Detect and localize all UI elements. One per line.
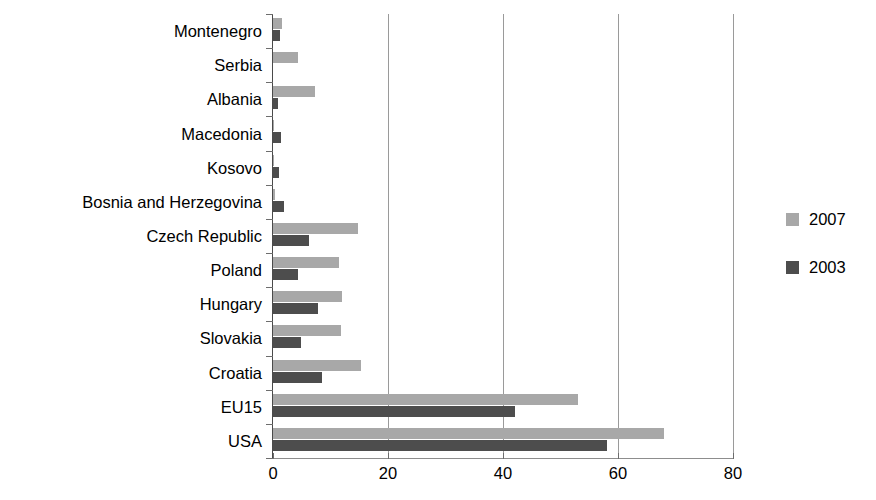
bar-2003 bbox=[273, 440, 607, 451]
plot-area bbox=[273, 14, 733, 458]
x-axis-tick-label: 80 bbox=[703, 464, 763, 482]
y-tick-mark bbox=[266, 219, 273, 220]
bar-2003 bbox=[273, 372, 322, 383]
bar-2007 bbox=[273, 325, 341, 336]
y-axis-category-label: USA bbox=[0, 433, 262, 450]
x-tick-mark bbox=[733, 453, 734, 459]
bar-2007 bbox=[273, 291, 342, 302]
bar-2007 bbox=[273, 360, 361, 371]
legend-item: 2007 bbox=[786, 210, 876, 258]
x-tick-mark bbox=[273, 453, 274, 459]
bar-group bbox=[273, 219, 733, 253]
bar-2007 bbox=[273, 155, 274, 166]
y-tick-mark bbox=[266, 48, 273, 49]
y-tick-mark bbox=[266, 321, 273, 322]
bar-2007 bbox=[273, 394, 578, 405]
bar-group bbox=[273, 48, 733, 82]
bar-2003 bbox=[273, 269, 298, 280]
bar-group bbox=[273, 14, 733, 48]
bar-2007 bbox=[273, 223, 358, 234]
y-axis-labels: MontenegroSerbiaAlbaniaMacedoniaKosovoBo… bbox=[0, 0, 262, 500]
legend-swatch-icon bbox=[786, 261, 799, 274]
bar-2003 bbox=[273, 201, 284, 212]
y-axis-category-label: Kosovo bbox=[0, 160, 262, 177]
y-axis-category-label: EU15 bbox=[0, 399, 262, 416]
bar-chart: MontenegroSerbiaAlbaniaMacedoniaKosovoBo… bbox=[0, 0, 876, 500]
y-tick-mark bbox=[266, 356, 273, 357]
x-axis-tick-label: 20 bbox=[358, 464, 418, 482]
y-tick-mark bbox=[266, 151, 273, 152]
bar-2007 bbox=[273, 18, 282, 29]
x-axis-tick-label: 0 bbox=[243, 464, 303, 482]
y-tick-mark bbox=[266, 424, 273, 425]
y-axis-category-label: Slovakia bbox=[0, 330, 262, 347]
y-axis-category-label: Macedonia bbox=[0, 126, 262, 143]
bar-group bbox=[273, 151, 733, 185]
y-axis-category-label: Serbia bbox=[0, 57, 262, 74]
legend-swatch-icon bbox=[786, 213, 799, 226]
bar-2007 bbox=[273, 52, 298, 63]
bar-2003 bbox=[273, 132, 281, 143]
legend-item: 2003 bbox=[786, 258, 876, 306]
bar-2007 bbox=[273, 257, 339, 268]
bar-group bbox=[273, 253, 733, 287]
y-axis-line bbox=[272, 14, 273, 459]
bar-2003 bbox=[273, 167, 279, 178]
gridline-80 bbox=[733, 14, 734, 458]
bar-group bbox=[273, 321, 733, 355]
bar-2003 bbox=[273, 235, 309, 246]
bar-2003 bbox=[273, 303, 318, 314]
bar-group bbox=[273, 82, 733, 116]
y-axis-category-label: Albania bbox=[0, 91, 262, 108]
y-axis-category-label: Poland bbox=[0, 262, 262, 279]
y-tick-mark bbox=[266, 390, 273, 391]
y-axis-category-label: Croatia bbox=[0, 365, 262, 382]
y-axis-category-label: Czech Republic bbox=[0, 228, 262, 245]
bar-2007 bbox=[273, 428, 664, 439]
y-tick-mark bbox=[266, 287, 273, 288]
y-axis-category-label: Hungary bbox=[0, 296, 262, 313]
y-tick-mark bbox=[266, 14, 273, 15]
legend-label: 2003 bbox=[809, 258, 846, 276]
bar-group bbox=[273, 116, 733, 150]
x-tick-mark bbox=[503, 453, 504, 459]
legend: 20072003 bbox=[786, 210, 876, 306]
x-axis-tick-label: 40 bbox=[473, 464, 533, 482]
bar-group bbox=[273, 185, 733, 219]
bar-2003 bbox=[273, 98, 278, 109]
bar-group bbox=[273, 390, 733, 424]
y-tick-mark bbox=[266, 185, 273, 186]
bar-group bbox=[273, 356, 733, 390]
y-tick-mark bbox=[266, 458, 273, 459]
bar-2003 bbox=[273, 337, 301, 348]
y-axis-category-label: Montenegro bbox=[0, 23, 262, 40]
legend-label: 2007 bbox=[809, 210, 846, 228]
bar-group bbox=[273, 287, 733, 321]
bar-2003 bbox=[273, 30, 280, 41]
x-tick-mark bbox=[618, 453, 619, 459]
x-tick-mark bbox=[388, 453, 389, 459]
y-axis-category-label: Bosnia and Herzegovina bbox=[0, 194, 262, 211]
y-tick-mark bbox=[266, 253, 273, 254]
y-tick-mark bbox=[266, 82, 273, 83]
bar-2003 bbox=[273, 406, 515, 417]
bar-2007 bbox=[273, 86, 315, 97]
bar-2007 bbox=[273, 189, 275, 200]
y-tick-mark bbox=[266, 116, 273, 117]
bar-2007 bbox=[273, 120, 274, 131]
x-axis-tick-label: 60 bbox=[588, 464, 648, 482]
